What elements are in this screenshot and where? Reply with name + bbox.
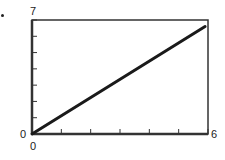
- y-axis-min-label: 0: [20, 128, 26, 140]
- y-axis-max-label: 7: [30, 5, 36, 17]
- line-chart: 7 0 0 6: [0, 0, 225, 160]
- data-series: [32, 27, 205, 134]
- series-line: [32, 27, 205, 134]
- x-axis-min-label: 0: [30, 140, 36, 152]
- x-axis-max-label: 6: [211, 128, 217, 140]
